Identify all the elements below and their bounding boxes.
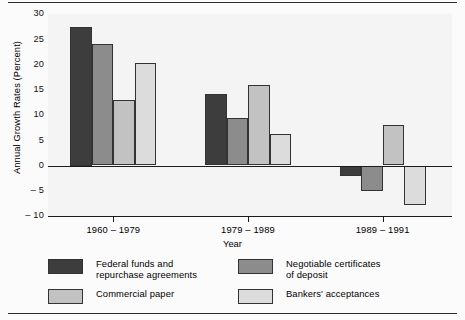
bar bbox=[70, 27, 92, 166]
chart-figure: Annual Growth Rates (Percent) 3025201510… bbox=[0, 0, 465, 320]
y-axis-tick-label: 25 bbox=[33, 35, 44, 44]
legend-swatch-icon bbox=[238, 259, 273, 274]
y-axis-tick-label: 10 bbox=[33, 110, 44, 119]
bar bbox=[270, 134, 292, 166]
y-axis-tick-label: 5 bbox=[39, 136, 44, 145]
bar bbox=[404, 166, 426, 205]
top-rule bbox=[8, 2, 457, 3]
legend-swatch-icon bbox=[48, 289, 83, 304]
y-axis-tick-label: 15 bbox=[33, 85, 44, 94]
x-axis-tick bbox=[248, 216, 249, 222]
legend-entry: Bankers' acceptances bbox=[238, 288, 379, 304]
bar bbox=[227, 118, 249, 165]
bars-container bbox=[48, 14, 452, 216]
bar bbox=[205, 94, 227, 165]
bar bbox=[135, 63, 157, 165]
legend-label: Negotiable certificates of deposit bbox=[286, 258, 381, 280]
legend-swatch-icon bbox=[48, 259, 83, 274]
x-axis-line bbox=[48, 216, 452, 217]
y-axis-tick-label: 20 bbox=[33, 60, 44, 69]
x-axis-tick bbox=[383, 216, 384, 222]
x-axis-tick-label: 1989 – 1991 bbox=[323, 224, 443, 235]
bar bbox=[92, 44, 114, 165]
bar bbox=[113, 100, 135, 166]
x-axis-tick-label: 1979 – 1989 bbox=[188, 224, 308, 235]
x-axis-tick-label: 1960 – 1979 bbox=[53, 224, 173, 235]
y-axis-tick-labels: 302520151050– 5– 10 bbox=[12, 14, 44, 216]
x-axis-title: Year bbox=[0, 238, 465, 249]
legend: Federal funds and repurchase agreements … bbox=[48, 258, 452, 306]
bar bbox=[361, 166, 383, 191]
legend-label: Federal funds and repurchase agreements bbox=[96, 258, 197, 280]
bar bbox=[340, 166, 362, 176]
bar bbox=[248, 85, 270, 166]
x-axis-tick bbox=[113, 216, 114, 222]
legend-entry: Commercial paper bbox=[48, 288, 174, 304]
y-axis-tick-label: 0 bbox=[39, 161, 44, 170]
y-axis-tick-label: 30 bbox=[33, 9, 44, 18]
bottom-rule bbox=[8, 313, 457, 314]
plot-area bbox=[48, 14, 452, 216]
legend-swatch-icon bbox=[238, 289, 273, 304]
legend-entry: Negotiable certificates of deposit bbox=[238, 258, 381, 280]
legend-label: Commercial paper bbox=[96, 288, 174, 299]
zero-axis-line bbox=[48, 166, 452, 167]
legend-entry: Federal funds and repurchase agreements bbox=[48, 258, 197, 280]
bar bbox=[383, 125, 405, 165]
y-axis-tick-label: – 10 bbox=[25, 211, 44, 220]
legend-label: Bankers' acceptances bbox=[286, 288, 379, 299]
y-axis-tick-label: – 5 bbox=[31, 186, 44, 195]
